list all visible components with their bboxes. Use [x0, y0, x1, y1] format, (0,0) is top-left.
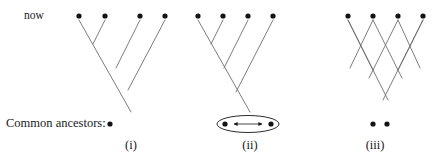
lineage-line: [93, 20, 105, 44]
present-individual-dot: [220, 13, 225, 18]
lineage-line: [116, 20, 140, 68]
present-individual-dot: [102, 13, 107, 18]
lineage-line: [236, 20, 273, 92]
present-individual-dot: [345, 13, 350, 18]
lineage-line: [128, 20, 165, 90]
present-individual-dot: [162, 13, 167, 18]
present-individual-dot: [270, 13, 275, 18]
lineage-line: [373, 20, 402, 78]
lineage-line: [224, 20, 248, 68]
present-individual-dot: [245, 13, 250, 18]
common-ancestor-dot: [384, 121, 389, 126]
lineage-line: [350, 20, 373, 68]
present-individual-dot: [76, 13, 81, 18]
lineage-line: [398, 20, 420, 68]
common-ancestor-dot: [222, 121, 227, 126]
common-ancestor-dot: [370, 121, 375, 126]
present-individual-dot: [395, 13, 400, 18]
present-individual-dot: [137, 13, 142, 18]
panel-i: [76, 13, 167, 126]
common-ancestor-dot: [268, 121, 273, 126]
lineage-line: [198, 20, 250, 112]
common-ancestors-label: Common ancestors:: [6, 117, 106, 130]
panel-label-i: (i): [96, 139, 166, 152]
figure-drawing-layer: [76, 13, 425, 132]
lineage-line: [211, 20, 223, 44]
present-individual-dot: [195, 13, 200, 18]
present-individual-dot: [420, 13, 425, 18]
panel-ii: [195, 13, 279, 132]
panel-label-ii: (ii): [215, 139, 285, 152]
common-ancestor-dot: [107, 121, 112, 126]
coalescent-genealogy-figure: [0, 0, 439, 157]
lineage-line: [79, 20, 131, 112]
panel-label-iii: (iii): [340, 139, 410, 152]
present-individual-dot: [370, 13, 375, 18]
now-label: now: [24, 10, 44, 22]
figure-container: now Common ancestors: (i) (ii) (iii): [0, 0, 439, 157]
lineage-line: [369, 20, 398, 78]
panel-iii: [345, 13, 425, 126]
